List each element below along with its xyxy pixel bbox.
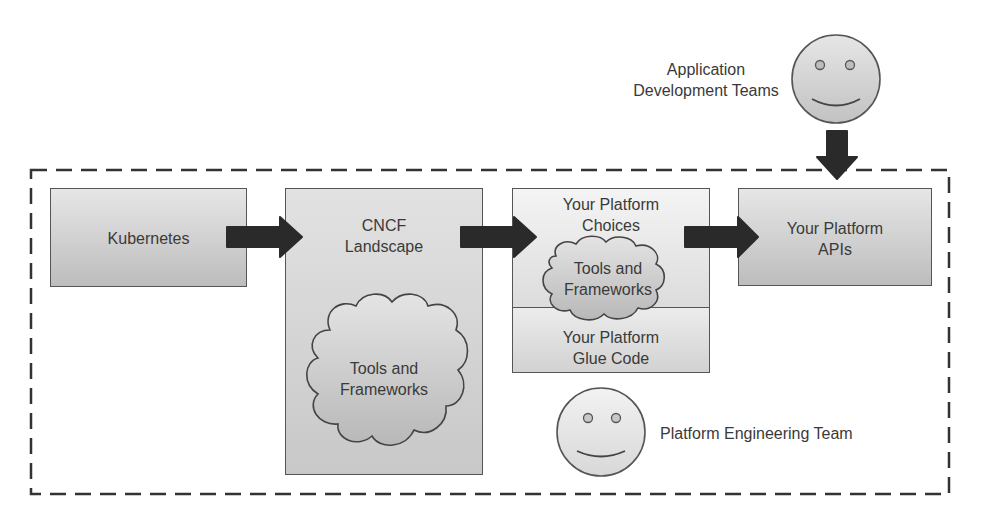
app-teams-line1: Application xyxy=(620,59,792,80)
platform-choices-title: Your Platform Choices xyxy=(512,194,710,236)
cncf-landscape-title: CNCF Landscape xyxy=(285,215,483,257)
cncf-cloud-label: Tools and Frameworks xyxy=(300,358,468,400)
platform-apis-line1: Your Platform xyxy=(738,218,932,239)
platform-choices-line2: Choices xyxy=(512,215,710,236)
platform-cloud-label: Tools and Frameworks xyxy=(532,258,684,300)
platform-cloud-line2: Frameworks xyxy=(532,279,684,300)
glue-code-line1: Your Platform xyxy=(512,327,710,348)
cncf-title-line2: Landscape xyxy=(285,236,483,257)
platform-apis-label: Your Platform APIs xyxy=(738,218,932,260)
glue-code-label: Your Platform Glue Code xyxy=(512,327,710,369)
app-teams-line2: Development Teams xyxy=(620,80,792,101)
platform-team-text: Platform Engineering Team xyxy=(660,423,890,444)
cncf-cloud-line2: Frameworks xyxy=(300,379,468,400)
platform-team-label: Platform Engineering Team xyxy=(660,423,890,444)
kubernetes-label: Kubernetes xyxy=(50,228,247,249)
app-teams-label: Application Development Teams xyxy=(620,59,792,101)
platform-apis-line2: APIs xyxy=(738,239,932,260)
glue-code-line2: Glue Code xyxy=(512,348,710,369)
cncf-title-line1: CNCF xyxy=(285,215,483,236)
kubernetes-text: Kubernetes xyxy=(50,228,247,249)
platform-choices-line1: Your Platform xyxy=(512,194,710,215)
cncf-cloud-line1: Tools and xyxy=(300,358,468,379)
platform-cloud-line1: Tools and xyxy=(532,258,684,279)
